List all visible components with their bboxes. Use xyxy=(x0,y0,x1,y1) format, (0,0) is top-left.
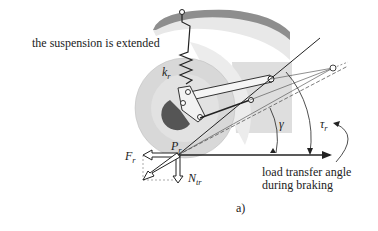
suspension-diagram xyxy=(0,0,378,231)
instant-center xyxy=(330,65,336,71)
spring-label: kr xyxy=(162,65,171,81)
arrowhead xyxy=(307,148,313,155)
arrowhead xyxy=(270,148,276,153)
gamma-label: γ xyxy=(279,117,284,132)
spring-sub: r xyxy=(167,72,170,81)
tau-label: τr xyxy=(320,117,328,133)
contact-point-label: Pr xyxy=(171,139,182,155)
ntr-label: Ntr xyxy=(188,171,202,187)
pivot xyxy=(181,101,186,106)
arrowhead xyxy=(322,151,332,159)
pivot xyxy=(249,98,254,103)
spring-mount xyxy=(180,10,185,15)
state-label: the suspension is extended xyxy=(32,36,160,51)
ntr-sub: tr xyxy=(196,178,202,187)
annotation-line-2: during braking xyxy=(262,179,351,192)
ntr-symbol: N xyxy=(188,171,196,185)
fr-sub: r xyxy=(132,156,135,165)
arrowhead xyxy=(333,121,340,127)
annotation: load transfer angle during braking xyxy=(262,166,351,192)
figure-caption: a) xyxy=(236,201,245,216)
fr-label: Fr xyxy=(125,149,136,165)
contact-point-sub: r xyxy=(178,146,181,155)
leader-curve xyxy=(336,124,348,162)
pivot xyxy=(186,90,191,95)
tau-sub: r xyxy=(324,124,327,133)
